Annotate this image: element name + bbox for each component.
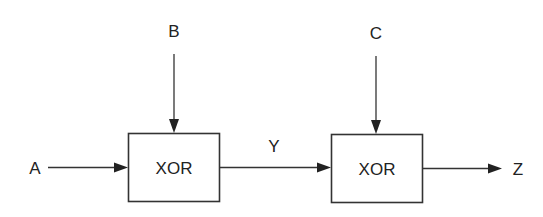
arrowhead-icon xyxy=(169,119,179,133)
input-a-label: A xyxy=(29,159,41,178)
arrowhead-icon xyxy=(114,163,128,173)
input-b-label: B xyxy=(168,22,179,41)
output-z: Z xyxy=(423,160,523,179)
input-a: A xyxy=(29,159,128,178)
arrowhead-icon xyxy=(317,163,331,173)
xor-gate-2-label: XOR xyxy=(359,160,396,179)
output-z-label: Z xyxy=(513,160,523,179)
xor-gate-1: XOR xyxy=(129,134,220,202)
input-b: B xyxy=(168,22,179,133)
xor-gate-1-label: XOR xyxy=(156,159,193,178)
arrowhead-icon xyxy=(488,164,502,174)
signal-y-label: Y xyxy=(268,137,279,156)
signal-y: Y xyxy=(220,137,331,173)
arrowhead-icon xyxy=(371,120,381,134)
input-c: C xyxy=(370,24,382,134)
input-c-label: C xyxy=(370,24,382,43)
xor-gate-2: XOR xyxy=(332,135,423,203)
xor-chain-diagram: XOR XOR A B Y C Z xyxy=(0,0,543,217)
